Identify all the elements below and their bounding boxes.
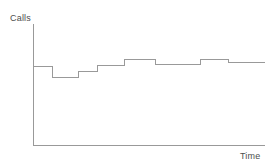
step-line-path (34, 59, 266, 77)
chart-axes (33, 24, 265, 146)
chart-series-step-line (34, 59, 266, 77)
x-axis-label: Time (240, 151, 260, 161)
step-chart: Calls Time (0, 0, 274, 167)
chart-plot-area (0, 0, 274, 167)
y-axis-label: Calls (10, 13, 31, 23)
